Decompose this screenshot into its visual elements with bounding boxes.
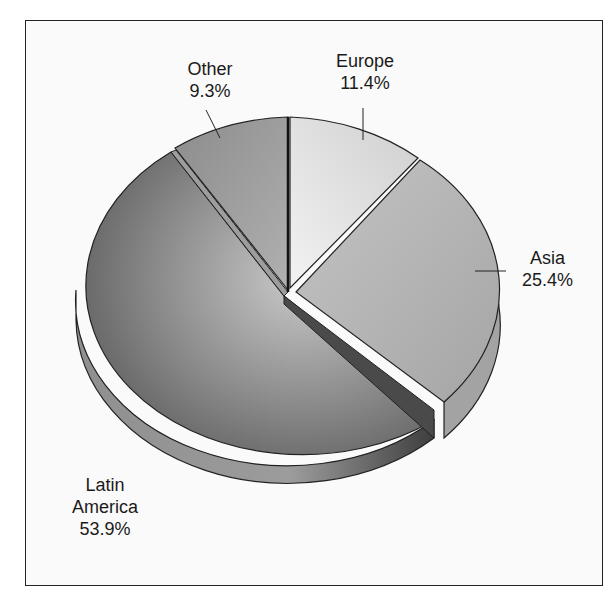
label-other-name: Other: [160, 58, 260, 80]
label-asia-name: Asia: [500, 247, 595, 269]
label-europe-value: 11.4%: [305, 72, 425, 94]
label-europe-name: Europe: [305, 50, 425, 72]
label-asia-value: 25.4%: [500, 269, 595, 291]
label-latin-america: Latin America 53.9%: [50, 474, 160, 540]
label-other: Other 9.3%: [160, 58, 260, 102]
label-latin-america-value: 53.9%: [50, 518, 160, 540]
label-europe: Europe 11.4%: [305, 50, 425, 94]
label-asia: Asia 25.4%: [500, 247, 595, 291]
label-latin-america-name-1: Latin: [50, 474, 160, 496]
label-other-value: 9.3%: [160, 80, 260, 102]
label-latin-america-name-2: America: [50, 496, 160, 518]
